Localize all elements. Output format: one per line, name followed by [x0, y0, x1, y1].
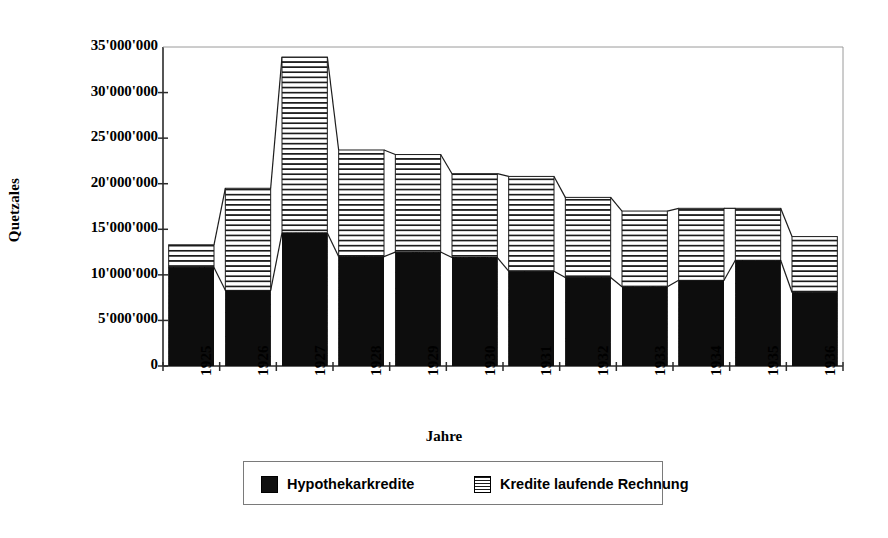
legend-swatch-hatch-icon [474, 476, 491, 493]
x-axis-tick-label: 1936 [822, 345, 839, 376]
x-axis-tick-label: 1929 [425, 345, 442, 376]
x-axis-tick-label: 1932 [595, 345, 612, 376]
x-axis-tick-label: 1931 [538, 345, 555, 376]
bar-group [169, 57, 838, 366]
legend-label: Hypothekarkredite [287, 476, 414, 492]
chart-figure: Quetzales 05'000'00010'000'00015'000'000… [0, 0, 888, 538]
x-axis-tick-label: 1927 [312, 345, 329, 376]
x-axis-title: Jahre [0, 428, 888, 445]
x-axis-tick-label: 1926 [255, 345, 272, 376]
chart-legend: Hypothekarkredite Kredite laufende Rechn… [243, 461, 663, 505]
x-axis-tick-label: 1933 [652, 345, 669, 376]
legend-swatch-solid-icon [261, 476, 278, 493]
legend-label: Kredite laufende Rechnung [500, 476, 689, 492]
x-axis-tick-label: 1934 [708, 345, 725, 376]
legend-entry-kredite-laufende-rechnung: Kredite laufende Rechnung [474, 472, 689, 496]
x-axis-tick-label: 1935 [765, 345, 782, 376]
plot-area [0, 0, 888, 538]
legend-entry-hypothekarkredite: Hypothekarkredite [261, 472, 414, 496]
x-axis-tick-label: 1925 [198, 345, 215, 376]
x-axis-tick-label: 1928 [368, 345, 385, 376]
x-axis-tick-label: 1930 [482, 345, 499, 376]
